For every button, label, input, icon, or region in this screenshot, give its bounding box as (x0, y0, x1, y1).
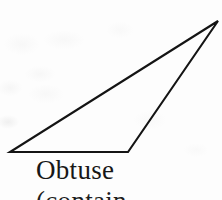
obtuse-triangle-figure: Obtuse (contain (0, 0, 222, 200)
caption-label-obtuse: Obtuse (0, 155, 222, 185)
caption-label-contains-clipped: (contain (0, 186, 222, 200)
obtuse-triangle-outline (10, 21, 218, 152)
caption-line-2-clip: (contain (0, 186, 222, 200)
